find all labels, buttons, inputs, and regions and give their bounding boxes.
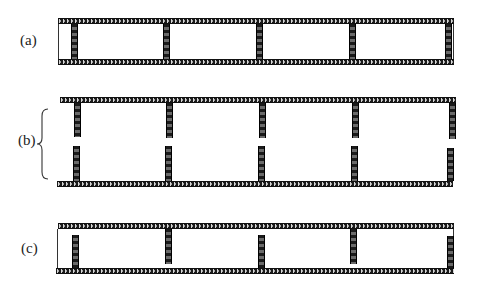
curly-brace-icon [36, 108, 50, 180]
post [349, 24, 356, 59]
top-plate [60, 97, 456, 103]
panel-label-c: (c) [21, 241, 38, 256]
top-attached-post [350, 229, 357, 264]
upper-post [166, 103, 173, 138]
post [71, 24, 78, 59]
lower-post [258, 146, 265, 181]
panel-label-b: (b) [18, 133, 36, 148]
left-edge [58, 24, 59, 59]
upper-post [449, 103, 456, 139]
bottom-attached-post [258, 235, 265, 268]
post [256, 24, 263, 59]
bottom-plate [56, 268, 454, 274]
lower-post [73, 146, 80, 181]
bottom-plate [57, 181, 453, 187]
panel-label-a: (a) [20, 33, 37, 48]
bottom-attached-post [72, 235, 79, 268]
left-edge [57, 229, 58, 268]
post [445, 24, 452, 59]
upper-post [259, 103, 266, 138]
top-attached-post [165, 229, 172, 264]
right-edge [453, 24, 454, 59]
upper-post [352, 103, 359, 138]
lower-post [351, 146, 358, 181]
bottom-plate [58, 59, 454, 65]
bottom-attached-post [447, 236, 454, 268]
upper-post [74, 103, 81, 137]
top-plate [58, 223, 454, 229]
lower-post [165, 146, 172, 181]
post [163, 24, 170, 59]
lower-post [447, 148, 454, 181]
